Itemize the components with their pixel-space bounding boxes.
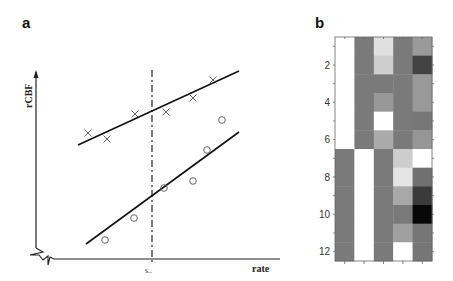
y-tick-label: 4 <box>324 97 330 108</box>
y-tick-label: 6 <box>324 134 330 145</box>
circle-marker-icon <box>102 237 109 244</box>
heatmap-cell <box>374 112 394 131</box>
heatmap-cell <box>335 186 355 205</box>
heatmap-cell <box>354 130 374 149</box>
fit-lines <box>78 71 239 244</box>
y-tick-label: 12 <box>319 246 331 257</box>
y-axis-label: rCBF <box>23 84 34 108</box>
heatmap-cell <box>374 186 394 205</box>
heatmap-cell <box>413 56 433 75</box>
y-axis-arrow-icon <box>34 70 39 78</box>
x-marker-icon <box>132 111 139 118</box>
heatmap-cell <box>374 93 394 112</box>
heatmap-cell <box>354 149 374 168</box>
heatmap-cell <box>335 130 355 149</box>
heatmap-cell <box>335 74 355 93</box>
heatmap-cell <box>374 130 394 149</box>
y-tick-label: 10 <box>319 209 331 220</box>
circle-marker-icon <box>204 147 211 154</box>
heatmap-cell <box>413 242 433 261</box>
heatmap-cell <box>335 93 355 112</box>
heatmap-cell <box>393 112 413 131</box>
heatmap-ticks <box>333 37 434 264</box>
heatmap-cell <box>354 37 374 56</box>
heatmap-cell <box>413 168 433 187</box>
x-marker-icon <box>190 95 197 102</box>
heatmap-cell <box>335 224 355 243</box>
heatmap-cell <box>354 186 374 205</box>
heatmap-cell <box>393 205 413 224</box>
heatmap-cell <box>413 74 433 93</box>
heatmap-cell <box>393 186 413 205</box>
y-tick-label: 8 <box>324 172 330 183</box>
heatmap-cell <box>374 224 394 243</box>
scatter-plot-panel-a: rCBF rate s.. <box>0 0 290 281</box>
x-marker-icon <box>104 136 111 143</box>
data-markers <box>85 77 226 244</box>
heatmap-cell <box>413 224 433 243</box>
heatmap-cell <box>393 93 413 112</box>
heatmap-cell <box>374 37 394 56</box>
heatmap-cell <box>374 242 394 261</box>
fit-line-1 <box>86 132 239 244</box>
x-marker-icon <box>85 130 92 137</box>
heatmap-cell <box>413 205 433 224</box>
heatmap-cell <box>374 168 394 187</box>
heatmap-cell <box>335 37 355 56</box>
heatmap-cell <box>393 56 413 75</box>
heatmap-cell <box>374 56 394 75</box>
heatmap-cell <box>354 74 374 93</box>
heatmap-cell <box>354 205 374 224</box>
heatmap-cell <box>393 168 413 187</box>
heatmap-cell <box>393 149 413 168</box>
heatmap-cell <box>354 56 374 75</box>
heatmap-cell <box>335 242 355 261</box>
heatmap-cell <box>393 74 413 93</box>
heatmap-cell <box>413 186 433 205</box>
heatmap-cell <box>393 130 413 149</box>
heatmap-y-tick-labels: 24681012 <box>319 60 331 258</box>
heatmap-cell <box>374 74 394 93</box>
heatmap-cell <box>354 168 374 187</box>
circle-marker-icon <box>219 117 226 124</box>
heatmap-cell <box>354 112 374 131</box>
heatmap-cell <box>393 37 413 56</box>
heatmap-cell <box>374 149 394 168</box>
heatmap-cell <box>335 149 355 168</box>
heatmap-cells <box>335 37 432 261</box>
heatmap-frame <box>335 37 432 261</box>
heatmap-cell <box>413 37 433 56</box>
circle-marker-icon <box>190 178 197 185</box>
heatmap-cell <box>413 112 433 131</box>
x-axis-label: rate <box>252 263 270 274</box>
heatmap-cell <box>413 149 433 168</box>
x-annotation-label: s.. <box>145 266 152 275</box>
heatmap-cell <box>354 224 374 243</box>
heatmap-cell <box>374 205 394 224</box>
heatmap-cell <box>393 242 413 261</box>
axis-break-icon <box>30 248 280 265</box>
heatmap-cell <box>335 168 355 187</box>
heatmap-cell <box>335 205 355 224</box>
heatmap-cell <box>354 242 374 261</box>
panel-b-label: b <box>315 14 324 31</box>
heatmap-cell <box>413 130 433 149</box>
heatmap-cell <box>335 112 355 131</box>
heatmap-cell <box>413 93 433 112</box>
heatmap-cell <box>393 224 413 243</box>
y-axis <box>34 70 39 248</box>
heatmap-cell <box>354 93 374 112</box>
y-tick-label: 2 <box>324 60 330 71</box>
x-marker-icon <box>163 109 170 116</box>
heatmap-cell <box>335 56 355 75</box>
circle-marker-icon <box>131 215 138 222</box>
